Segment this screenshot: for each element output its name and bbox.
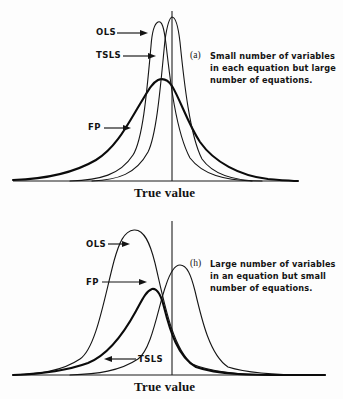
label-ols-panel-b: OLS	[86, 240, 106, 249]
label-tsls-panel-a: TSLS	[96, 51, 121, 60]
leader-ols-panel-a	[117, 30, 148, 36]
panel-a: OLS TSLS FP (a) Small number of variable…	[0, 0, 343, 200]
label-fp-panel-a: FP	[88, 123, 101, 132]
figure-sampling-distributions: OLS TSLS FP (a) Small number of variable…	[0, 0, 343, 399]
curve-ols-panel-b	[13, 230, 325, 375]
panel-a-plot	[0, 0, 343, 200]
curve-tsls-panel-a	[92, 17, 262, 181]
label-tsls-panel-b: TSLS	[138, 355, 163, 364]
panel-b: OLS FP TSLS (h) Large number of variable…	[0, 199, 343, 399]
label-ols-panel-a: OLS	[96, 28, 116, 37]
panel-a-caption: Small number of variables in each equati…	[210, 51, 342, 87]
panel-b-tag: (h)	[190, 258, 201, 268]
curve-ols-panel-a	[70, 22, 252, 181]
curve-fp-panel-a	[13, 79, 298, 181]
panel-b-axis-label: True value	[134, 379, 195, 395]
label-fp-panel-b: FP	[86, 278, 99, 287]
panel-b-plot	[0, 199, 343, 399]
leader-tsls-panel-a	[123, 53, 156, 59]
leader-tsls-panel-b	[104, 356, 136, 362]
curve-fp-panel-b	[13, 289, 325, 375]
panel-b-caption: Large number of variables in an equation…	[210, 259, 342, 295]
panel-a-tag: (a)	[190, 50, 201, 60]
